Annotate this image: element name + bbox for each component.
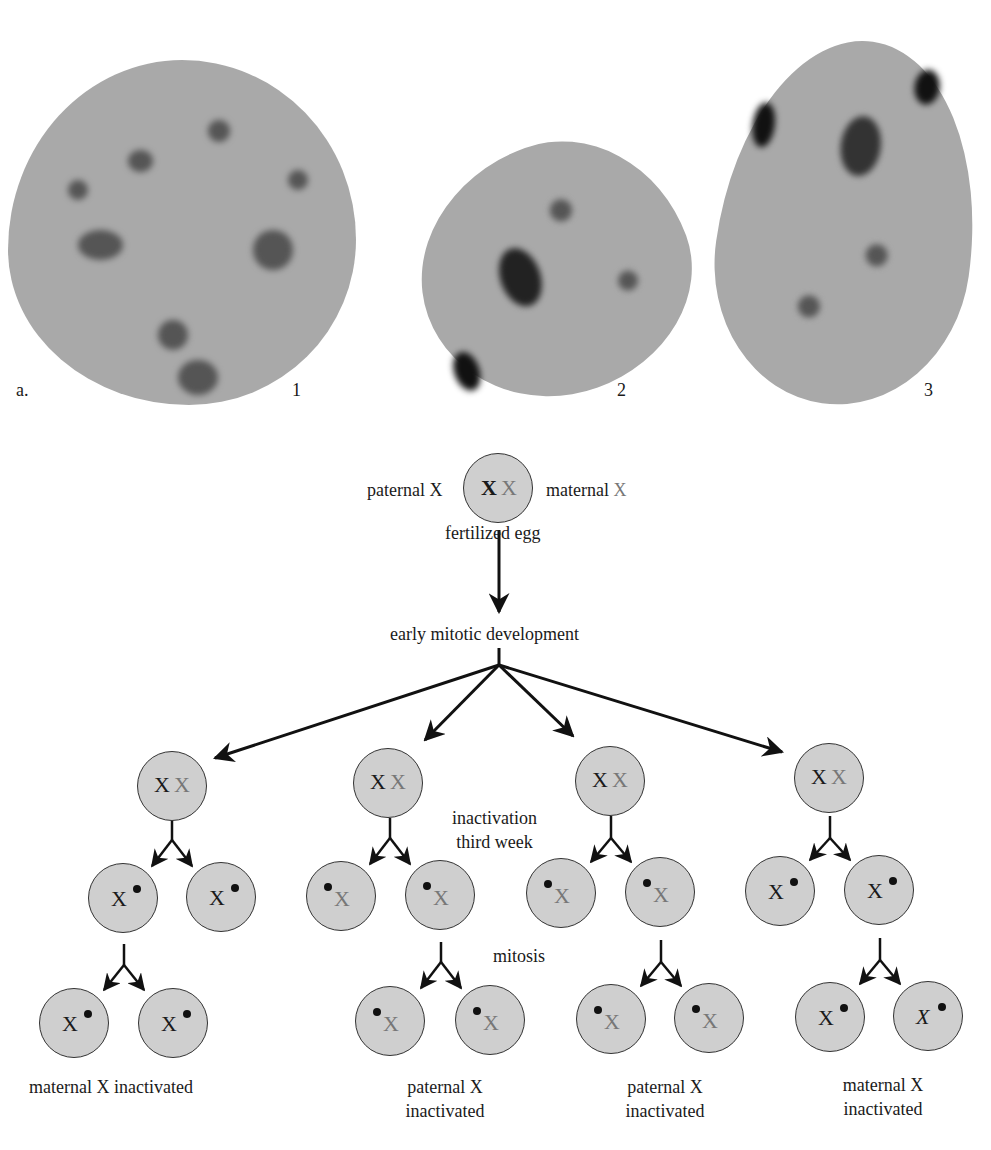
maternal-x: X [501, 475, 517, 501]
paternal-x-label: paternal X [367, 480, 442, 501]
cell-b2-r2: X [455, 985, 525, 1055]
paternal-x: X [481, 475, 497, 501]
cell-b1-l1: X [88, 863, 158, 933]
result-label-4: maternal X inactivated [833, 1073, 933, 1121]
cell-b2-r1: X [405, 860, 475, 930]
cell-b3-l2: X [576, 984, 646, 1054]
cell-b3-r1: X [625, 857, 695, 927]
cell-b3-r2: X [674, 983, 744, 1053]
cell-b3-xx: X X [575, 746, 645, 816]
mitosis-label: mitosis [493, 946, 545, 967]
cell-b4-r1: X [844, 855, 914, 925]
cell-b4-l2: X [795, 982, 865, 1052]
cell-b4-r2: X [893, 981, 963, 1051]
cell-b2-l1: X [306, 861, 376, 931]
cell-b2-xx: X X [353, 748, 423, 818]
cell-b2-l2: X [355, 986, 425, 1056]
maternal-x-label: maternal X [546, 480, 626, 501]
inactivation-label: inactivation third week [452, 806, 537, 854]
cell-b4-l1: X [745, 856, 815, 926]
cell-b1-xx: X X [137, 751, 207, 821]
stage-label: early mitotic development [390, 624, 579, 645]
cell-b1-r1: X [186, 862, 256, 932]
fertilized-egg-cell: X X [463, 453, 533, 523]
result-label-3: paternal X inactivated [615, 1075, 715, 1123]
arrows-layer [0, 0, 991, 1150]
cell-b1-l2: X [39, 988, 109, 1058]
result-label-2: paternal X inactivated [395, 1075, 495, 1123]
cell-b1-r2: X [138, 988, 208, 1058]
cell-b3-l1: X [526, 858, 596, 928]
result-label-1: maternal X inactivated [29, 1077, 193, 1098]
cell-b4-xx: X X [794, 743, 864, 813]
fertilized-egg-caption: fertilized egg [445, 523, 540, 544]
